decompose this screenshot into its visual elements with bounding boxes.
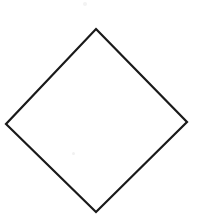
diamond-figure	[0, 0, 202, 217]
image-canvas	[0, 0, 202, 217]
